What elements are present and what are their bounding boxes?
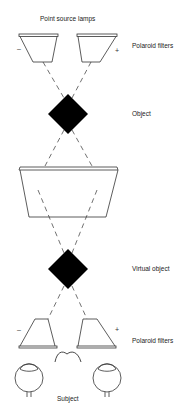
bottom-right-filter xyxy=(77,319,116,348)
nose-icon xyxy=(55,352,81,362)
right-eye-icon xyxy=(93,364,121,397)
plus-sign-bottom: + xyxy=(115,326,119,333)
diagram-canvas xyxy=(0,0,191,412)
top-right-filter xyxy=(77,34,117,62)
left-eye-icon xyxy=(15,364,43,397)
mirror-block xyxy=(19,167,118,217)
virtual-object-label: Virtual object xyxy=(132,265,169,272)
rays-mirror xyxy=(38,190,97,253)
object-diamond xyxy=(48,94,88,134)
rays-bottom xyxy=(48,286,87,319)
lamps-label: Point source lamps xyxy=(40,15,95,22)
bottom-left-filter xyxy=(19,319,57,348)
object-label: Object xyxy=(132,110,151,117)
virtual-object-diamond xyxy=(48,249,88,289)
plus-sign-top: + xyxy=(115,47,119,54)
polaroid-filters-bottom-label: Polaroid filters xyxy=(132,337,173,344)
polaroid-filters-top-label: Polaroid filters xyxy=(132,42,173,49)
subject-label: Subject xyxy=(57,395,79,402)
minus-sign-top: – xyxy=(17,45,21,52)
top-left-filter xyxy=(19,34,58,62)
minus-sign-bottom: – xyxy=(17,326,21,333)
